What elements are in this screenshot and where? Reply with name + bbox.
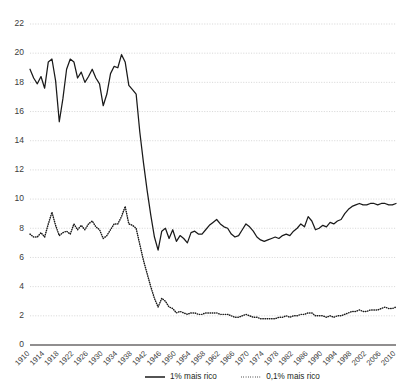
x-tick-label: 2010 xyxy=(379,349,397,367)
x-tick-label: 1982 xyxy=(277,349,295,367)
y-tick-label: 6 xyxy=(19,252,24,262)
x-tick-label: 1998 xyxy=(335,349,353,367)
y-tick-label: 18 xyxy=(15,77,25,87)
x-tick-label: 1930 xyxy=(86,349,104,367)
x-tick-label: 1950 xyxy=(159,349,177,367)
x-tick-label: 1942 xyxy=(130,349,148,367)
x-tick-label: 1990 xyxy=(306,349,324,367)
x-tick-label: 1978 xyxy=(262,349,280,367)
x-tick-label: 1966 xyxy=(218,349,236,367)
series-line-top-0-1-percent xyxy=(30,206,396,318)
x-tick-label: 1918 xyxy=(42,349,60,367)
legend-label: 1% mais rico xyxy=(170,372,217,381)
x-tick-label: 1938 xyxy=(116,349,134,367)
chart-legend: 1% mais rico0,1% mais rico xyxy=(145,372,320,381)
x-tick-label: 2002 xyxy=(350,349,368,367)
x-tick-label: 1986 xyxy=(291,349,309,367)
legend-label: 0,1% mais rico xyxy=(266,372,320,381)
y-tick-label: 0 xyxy=(19,339,24,349)
x-tick-label: 1934 xyxy=(101,349,119,367)
x-tick-label: 1926 xyxy=(72,349,90,367)
data-series-group xyxy=(30,55,396,319)
x-tick-label: 2006 xyxy=(364,349,382,367)
y-tick-label: 22 xyxy=(15,18,25,28)
x-tick-label: 1954 xyxy=(174,349,192,367)
y-tick-label: 8 xyxy=(19,223,24,233)
x-tick-label: 1974 xyxy=(247,349,265,367)
line-chart: 0246810121416182022 19101914191819221926… xyxy=(0,0,417,392)
y-tick-label: 20 xyxy=(15,47,25,57)
y-tick-label: 2 xyxy=(19,310,24,320)
y-tick-label: 16 xyxy=(15,106,25,116)
x-tick-label: 1994 xyxy=(321,349,339,367)
x-tick-label: 1970 xyxy=(233,349,251,367)
x-tick-label: 1958 xyxy=(189,349,207,367)
y-tick-label: 4 xyxy=(19,281,24,291)
y-tick-label: 10 xyxy=(15,193,25,203)
x-tick-label: 1910 xyxy=(13,349,31,367)
gridlines-group xyxy=(30,24,396,316)
x-tick-label: 1962 xyxy=(203,349,221,367)
x-tick-label: 1922 xyxy=(57,349,75,367)
x-tick-label: 1914 xyxy=(28,349,46,367)
x-axis-tick-labels: 1910191419181922192619301934193819421946… xyxy=(13,349,397,367)
y-tick-label: 14 xyxy=(15,135,25,145)
chart-container: 0246810121416182022 19101914191819221926… xyxy=(0,0,417,392)
series-line-top-1-percent xyxy=(30,55,396,251)
y-tick-label: 12 xyxy=(15,164,25,174)
y-axis-tick-labels: 0246810121416182022 xyxy=(15,18,25,349)
x-tick-label: 1946 xyxy=(145,349,163,367)
